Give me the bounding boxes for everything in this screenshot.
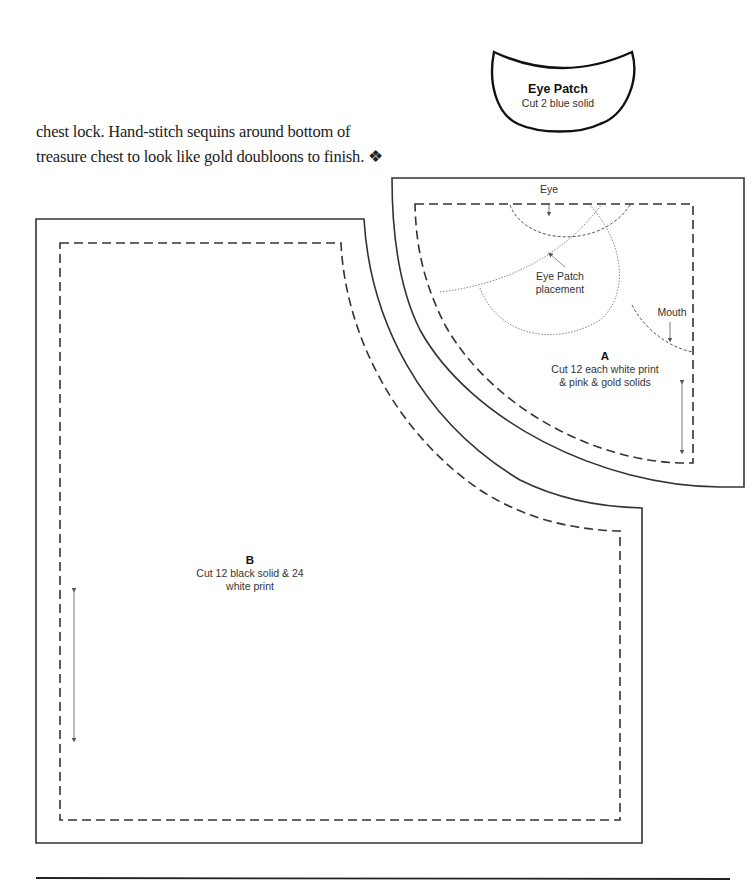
pattern-drawing bbox=[0, 0, 752, 892]
piece-b bbox=[36, 219, 642, 843]
eye-patch-placement-label: Eye Patch placement bbox=[520, 270, 600, 296]
piece-b-label: B Cut 12 black solid & 24 white print bbox=[190, 554, 310, 593]
eye-patch-title: Eye Patch bbox=[512, 82, 604, 97]
eye-patch-instruction: Cut 2 blue solid bbox=[512, 97, 604, 110]
piece-a-title: A bbox=[550, 350, 660, 363]
pattern-page: chest lock. Hand-stitch sequins around b… bbox=[0, 0, 752, 892]
page-rule bbox=[36, 878, 730, 879]
piece-a bbox=[392, 178, 744, 487]
piece-a-instruction-2: & pink & gold solids bbox=[550, 376, 660, 389]
piece-b-title: B bbox=[190, 554, 310, 567]
eye-patch-label: Eye Patch Cut 2 blue solid bbox=[512, 82, 604, 110]
eye-marking-label: Eye bbox=[534, 183, 564, 196]
piece-b-instruction-2: white print bbox=[190, 580, 310, 593]
piece-a-label: A Cut 12 each white print & pink & gold … bbox=[550, 350, 660, 389]
mouth-marking-label: Mouth bbox=[654, 306, 690, 319]
piece-b-instruction-1: Cut 12 black solid & 24 bbox=[190, 567, 310, 580]
piece-a-instruction-1: Cut 12 each white print bbox=[550, 363, 660, 376]
